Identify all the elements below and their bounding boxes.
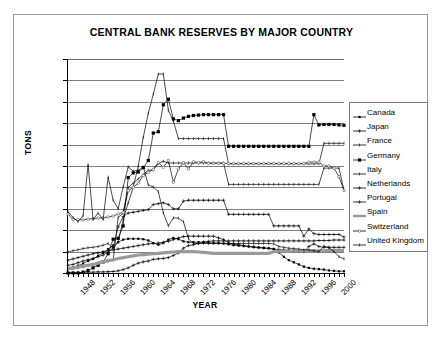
data-point-marker	[212, 234, 215, 237]
data-point-marker	[232, 145, 235, 148]
x-tick-mark	[324, 273, 325, 277]
x-tick-label: 1992	[299, 278, 318, 297]
legend-item-portugal[interactable]: Portugal	[352, 191, 425, 205]
data-point-marker	[297, 239, 300, 242]
x-tick-mark	[244, 273, 245, 277]
data-point-marker	[342, 238, 345, 241]
data-point-marker	[207, 234, 210, 237]
data-point-marker	[142, 243, 145, 246]
data-point-marker	[222, 199, 225, 202]
data-point-marker	[318, 161, 321, 164]
legend-item-netherlands[interactable]: Netherlands	[352, 177, 425, 191]
data-point-marker	[142, 174, 145, 177]
data-point-marker	[272, 162, 275, 165]
data-point-marker	[127, 246, 130, 249]
data-point-marker	[277, 239, 280, 242]
data-point-marker	[197, 234, 200, 237]
data-point-marker	[302, 145, 305, 148]
data-point-marker	[142, 209, 145, 212]
x-tick-mark	[138, 273, 139, 277]
data-point-marker	[333, 270, 335, 272]
legend-item-spain[interactable]: Spain	[352, 205, 425, 219]
legend-marker-icon	[352, 207, 367, 217]
data-point-marker	[132, 264, 135, 267]
data-point-marker	[96, 251, 99, 254]
data-point-marker	[267, 213, 270, 216]
data-point-marker	[257, 213, 260, 216]
legend-item-italy[interactable]: Italy	[352, 163, 425, 177]
legend-item-france[interactable]: France	[352, 134, 425, 148]
data-point-marker	[202, 113, 205, 116]
x-tick-mark	[188, 273, 189, 277]
data-point-marker	[187, 199, 190, 202]
data-point-marker	[227, 162, 230, 165]
data-point-marker	[217, 162, 220, 165]
data-point-marker	[177, 168, 180, 171]
data-point-marker	[342, 235, 345, 238]
data-point-marker	[147, 242, 150, 245]
data-point-marker	[122, 211, 125, 214]
data-point-marker	[303, 162, 306, 165]
data-point-marker	[277, 224, 280, 227]
data-point-marker	[81, 255, 84, 258]
data-point-marker	[152, 258, 155, 261]
legend-marker-icon	[352, 122, 367, 132]
legend-item-germany[interactable]: Germany	[352, 149, 425, 163]
data-point-marker	[332, 233, 335, 236]
data-point-marker	[317, 239, 320, 242]
x-tick-label: 1952	[98, 278, 117, 297]
legend-item-switzerland[interactable]: Switzerland	[352, 220, 425, 234]
x-tick-mark	[234, 273, 235, 277]
data-point-marker	[172, 181, 175, 184]
data-point-marker	[82, 262, 84, 264]
data-point-marker	[318, 268, 320, 270]
data-point-marker	[332, 238, 335, 241]
x-tick-mark	[113, 273, 114, 277]
x-tick-mark	[143, 273, 144, 277]
legend-marker-icon	[352, 179, 367, 189]
x-tick-mark	[269, 273, 270, 277]
x-tick-mark	[158, 273, 159, 277]
legend-label: Netherlands	[367, 179, 410, 189]
data-point-marker	[187, 241, 189, 243]
data-point-marker	[202, 160, 205, 163]
legend-label: Switzerland	[367, 222, 408, 232]
legend-label: Germany	[367, 151, 400, 161]
legend-marker-icon	[352, 136, 367, 146]
data-point-marker	[71, 257, 74, 260]
legend-label: Italy	[367, 165, 382, 175]
data-point-marker	[297, 224, 300, 227]
data-point-marker	[272, 145, 275, 148]
data-point-marker	[292, 145, 295, 148]
data-point-marker	[287, 224, 290, 227]
legend-marker-icon	[352, 222, 367, 232]
data-point-marker	[358, 186, 361, 189]
x-tick-mark	[274, 273, 275, 277]
data-point-marker	[322, 239, 325, 242]
data-point-marker	[192, 160, 195, 163]
x-tick-label: 1988	[279, 278, 298, 297]
data-point-marker	[237, 162, 240, 165]
legend-label: United Kingdom	[367, 236, 424, 246]
x-tick-mark	[259, 273, 260, 277]
data-point-marker	[227, 145, 230, 148]
data-point-marker	[237, 213, 240, 216]
x-tick-mark	[239, 273, 240, 277]
data-point-marker	[147, 171, 150, 174]
data-point-marker	[313, 161, 316, 164]
data-point-marker	[282, 239, 285, 242]
legend-item-japan[interactable]: Japan	[352, 120, 425, 134]
x-tick-mark	[128, 273, 129, 277]
data-point-marker	[117, 213, 120, 216]
data-point-marker	[358, 201, 361, 204]
legend-item-canada[interactable]: Canada	[352, 106, 425, 120]
data-point-marker	[312, 239, 315, 242]
data-point-marker	[317, 245, 320, 248]
x-tick-mark	[98, 273, 99, 277]
data-point-marker	[101, 250, 104, 253]
x-tick-mark	[193, 273, 194, 277]
data-point-marker	[202, 234, 205, 237]
x-tick-label: 1976	[219, 278, 238, 297]
legend-item-united-kingdom[interactable]: United Kingdom	[352, 234, 425, 248]
legend-marker-icon	[352, 236, 367, 246]
